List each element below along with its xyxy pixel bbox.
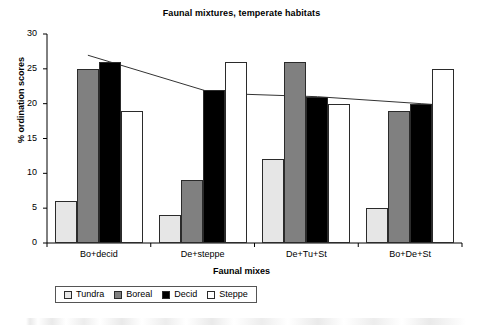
x-tick-label: De+Tu+St	[256, 250, 356, 259]
legend-swatch-icon	[162, 291, 170, 299]
bar-tundra-de-steppe	[159, 215, 181, 243]
legend-label: Tundra	[76, 290, 104, 299]
legend-swatch-icon	[207, 291, 215, 299]
plot-area	[0, 0, 483, 325]
y-tick-label: 0	[11, 238, 37, 247]
legend-swatch-icon	[114, 291, 122, 299]
bar-decid-bo-decid	[99, 62, 121, 243]
legend-entry-steppe: Steppe	[207, 290, 248, 299]
bar-boreal-bo-decid	[77, 69, 99, 243]
legend-label: Steppe	[219, 290, 248, 299]
y-tick-label: 10	[11, 168, 37, 177]
bar-steppe-bo-decid	[121, 111, 143, 243]
bar-decid-de-tu-st	[306, 97, 328, 243]
x-tick-label: De+steppe	[153, 250, 253, 259]
bar-boreal-bo-de-st	[388, 111, 410, 243]
legend-entry-decid: Decid	[162, 290, 197, 299]
legend-label: Decid	[174, 290, 197, 299]
bar-tundra-de-tu-st	[262, 159, 284, 243]
legend-entry-tundra: Tundra	[64, 290, 104, 299]
y-tick-label: 15	[11, 134, 37, 143]
y-tick-label: 20	[11, 99, 37, 108]
bar-steppe-de-steppe	[225, 62, 247, 243]
trend-line	[110, 62, 421, 104]
chart-legend: TundraBorealDecidSteppe	[55, 286, 257, 303]
bar-steppe-de-tu-st	[328, 104, 350, 243]
bar-steppe-bo-de-st	[432, 69, 454, 243]
x-axis-label: Faunal mixes	[0, 266, 483, 276]
bar-boreal-de-steppe	[181, 180, 203, 243]
legend-label: Boreal	[126, 290, 152, 299]
x-tick-label: Bo+decid	[49, 250, 149, 259]
bar-tundra-bo-de-st	[366, 208, 388, 243]
bar-decid-bo-de-st	[410, 104, 432, 243]
x-tick-label: Bo+De+St	[360, 250, 460, 259]
chart-figure: Faunal mixtures, temperate habitats % or…	[0, 0, 483, 325]
bar-boreal-de-tu-st	[284, 62, 306, 243]
bar-tundra-bo-decid	[55, 201, 77, 243]
trend-line-lead	[88, 55, 110, 62]
y-tick-label: 30	[11, 29, 37, 38]
y-tick-label: 25	[11, 64, 37, 73]
caption-fragment	[26, 318, 466, 325]
legend-swatch-icon	[64, 291, 72, 299]
legend-entry-boreal: Boreal	[114, 290, 152, 299]
y-tick-label: 5	[11, 203, 37, 212]
bar-decid-de-steppe	[203, 90, 225, 243]
